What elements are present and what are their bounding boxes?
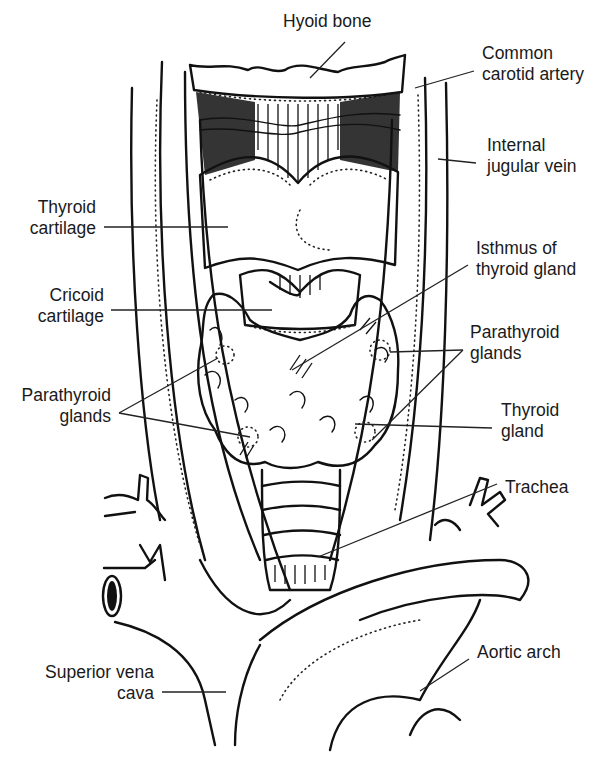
- label-cricoid-cartilage: Cricoid cartilage: [10, 285, 104, 327]
- label-thyroid-cartilage: Thyroid cartilage: [10, 197, 96, 239]
- thyroid-cartilage-shape: [200, 157, 398, 270]
- thyrohyoid-membrane: [196, 92, 400, 182]
- label-trachea: Trachea: [505, 477, 569, 498]
- trachea-shape: [262, 470, 340, 590]
- anatomy-figure: Hyoid bone Common carotid artery Interna…: [0, 0, 612, 757]
- hyoid-bone-shape: [190, 55, 405, 101]
- superior-vena-cava-shape: [103, 560, 290, 745]
- label-isthmus-of-thyroid-gland: Isthmus of thyroid gland: [476, 238, 576, 280]
- label-aortic-arch: Aortic arch: [477, 642, 561, 663]
- label-parathyroid-glands-left: Parathyroid glands: [4, 385, 111, 427]
- label-common-carotid-artery: Common carotid artery: [482, 43, 584, 85]
- label-superior-vena-cava: Superior vena cava: [10, 662, 154, 704]
- label-hyoid-bone: Hyoid bone: [283, 11, 372, 32]
- label-internal-jugular-vein: Internal jugular vein: [487, 135, 577, 177]
- label-thyroid-gland: Thyroid gland: [501, 400, 559, 442]
- label-parathyroid-glands-right: Parathyroid glands: [470, 322, 560, 364]
